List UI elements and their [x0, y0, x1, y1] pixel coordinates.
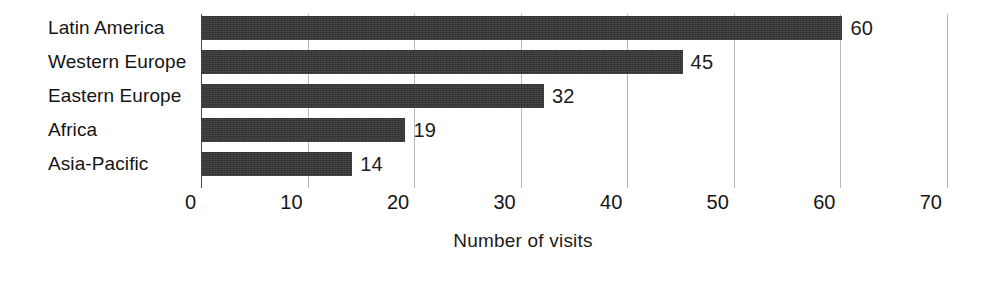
category-label: Eastern Europe [48, 84, 181, 108]
bar-value-label: 60 [850, 17, 873, 40]
bar [201, 50, 683, 74]
bar-row: 19 [201, 118, 947, 142]
bar-row: 60 [201, 16, 947, 40]
category-label: Africa [48, 118, 97, 142]
bar-row: 14 [201, 152, 947, 176]
bar [201, 84, 544, 108]
x-tick-label: 60 [813, 190, 840, 214]
x-tick-label: 10 [280, 190, 307, 214]
x-axis-tick-labels: 010203040506070 [201, 190, 947, 216]
bar-value-label: 19 [413, 119, 436, 142]
bar-row: 45 [201, 50, 947, 74]
x-axis-title-text: Number of visits [453, 230, 592, 251]
x-axis-title: Number of visits [0, 230, 998, 252]
x-tick-label: 40 [600, 190, 627, 214]
bar [201, 118, 405, 142]
bar-row: 32 [201, 84, 947, 108]
bar-series: 6045321914 [201, 14, 947, 188]
x-tick-label: 30 [493, 190, 520, 214]
x-tick-label: 70 [920, 190, 947, 214]
category-label: Latin America [48, 16, 164, 40]
x-tick-label: 50 [707, 190, 734, 214]
bar-value-label: 32 [552, 85, 575, 108]
category-axis-labels: Latin AmericaWestern EuropeEastern Europ… [0, 14, 195, 188]
category-label: Asia-Pacific [48, 152, 148, 176]
gridline-70 [947, 14, 948, 188]
x-tick-label: 20 [387, 190, 414, 214]
bar-value-label: 14 [360, 153, 383, 176]
bar [201, 16, 842, 40]
x-tick-label: 0 [185, 190, 201, 214]
category-label: Western Europe [48, 50, 186, 74]
chart-figure: 6045321914 Latin AmericaWestern EuropeEa… [0, 0, 998, 291]
bar-value-label: 45 [691, 51, 714, 74]
bar [201, 152, 352, 176]
